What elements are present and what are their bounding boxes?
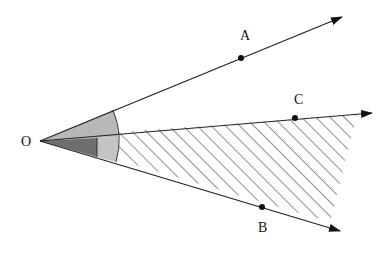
point-C bbox=[292, 115, 298, 121]
point-A bbox=[238, 55, 244, 61]
angle-COB-light-region bbox=[97, 137, 118, 162]
label-B: B bbox=[258, 220, 267, 235]
label-O: O bbox=[21, 134, 31, 149]
angle-diagram: O A C B bbox=[0, 0, 386, 260]
label-A: A bbox=[240, 28, 251, 43]
point-B bbox=[259, 204, 265, 210]
label-C: C bbox=[294, 92, 303, 107]
